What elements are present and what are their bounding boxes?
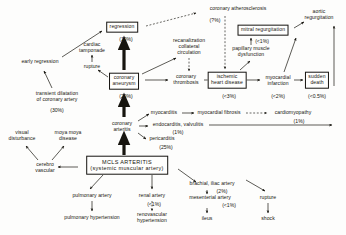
edge-brachial-to-rupture	[246, 180, 265, 191]
label-pct-renal-artery: (<1%)	[147, 201, 161, 207]
node-myocardial-fibrosis[interactable]: myocardial fibrosis	[197, 110, 240, 116]
node-renal-artery[interactable]: renal artery	[139, 193, 165, 199]
node-mitral-regurgitation[interactable]: mitral regurgitation	[238, 25, 289, 36]
node-cardiac-tamponade[interactable]: cardiac tamponade	[79, 42, 105, 54]
node-transient-dilatation[interactable]: transient dilatation of coronary artery	[36, 91, 78, 103]
edge-cerebro-to-moya	[52, 146, 64, 160]
node-cardiomyopathy[interactable]: cardiomyopathy	[275, 110, 312, 116]
node-coronary-arteritis[interactable]: coronary arteritis	[112, 121, 132, 133]
label-pct-coronary-aneurysm: (20%)	[119, 93, 133, 99]
label-pct-pericarditis: (25%)	[159, 144, 173, 150]
edge-aneurysm-to-recanalization	[142, 58, 176, 74]
node-ischemic-heart-disease[interactable]: ischemic heart disease	[208, 72, 247, 89]
node-moya-moya[interactable]: moya moya disease	[55, 130, 82, 142]
diagram-canvas: regressioncoronary atherosclerosiscardia…	[0, 0, 346, 235]
edge-infarction-to-mitral	[284, 38, 296, 72]
edge-arteritis-to-pericarditis	[138, 133, 146, 139]
node-pulmonary-artery[interactable]: pulmonary artery	[72, 193, 111, 199]
node-regression[interactable]: regression	[106, 22, 138, 33]
edge-mcls-to-pulmonary	[90, 175, 103, 189]
edge-cerebro-to-visual	[26, 146, 38, 160]
node-rupture-top[interactable]: rupture	[84, 64, 101, 70]
node-renovascular-hypertension[interactable]: renovascular hypertension	[137, 212, 167, 224]
node-myocardial-infarction[interactable]: myocardial infarction	[265, 75, 290, 87]
label-pct-brachial: (2%)	[217, 188, 228, 194]
label-pct-regression: (10%)	[119, 36, 133, 42]
node-endocarditis[interactable]: endocarditis, valvulitis	[153, 122, 204, 128]
edge-mitral-to-aortic	[294, 22, 304, 28]
label-pct-sudden-death: (<0.5%)	[308, 93, 326, 99]
label-pct-myocardial-infarction: (<2%)	[271, 93, 285, 99]
node-ileus[interactable]: ileus	[202, 216, 213, 222]
label-pct-ischemic: (<3%)	[222, 93, 236, 99]
node-brachial-iliac-artery[interactable]: brachial, iliac artery	[190, 181, 235, 187]
node-early-regression[interactable]: early regression	[21, 59, 58, 65]
label-pct-mesenterial: (<1%)	[222, 202, 236, 208]
label-pct-atherosclerosis: (?%)	[210, 17, 221, 23]
label-pct-cardiomyopathy: (1%)	[294, 118, 305, 124]
node-pulmonary-hypertension[interactable]: pulmonary hypertension	[64, 215, 119, 221]
node-papillary-muscle[interactable]: papillary muscle dysfunction	[232, 46, 269, 58]
node-sudden-death[interactable]: sudden death	[305, 72, 329, 89]
node-aortic-regurgitation[interactable]: aortic regurgitation	[305, 9, 334, 21]
node-coronary-thrombosis[interactable]: coronary thrombosis	[173, 74, 198, 86]
label-pct-mitral-regurgitation: (<1%)	[255, 38, 269, 44]
node-shock[interactable]: shock	[261, 216, 275, 222]
edge-regression-to-atherosclerosis	[146, 13, 196, 26]
edge-ischemic-to-papillary	[240, 61, 250, 70]
node-mesenterial-artery[interactable]: mesenterial artery	[189, 195, 231, 201]
node-rupture-bottom[interactable]: rupture	[260, 195, 277, 201]
edge-aneurysm-to-rupture	[98, 70, 108, 77]
label-pct-endocarditis: (1%)	[173, 129, 184, 135]
node-coronary-atherosclerosis[interactable]: coronary atherosclerosis	[210, 6, 267, 12]
label-pct-transient-dilatation: (30%)	[50, 107, 64, 113]
node-visual-disturbance[interactable]: visual disturbance	[9, 130, 36, 142]
node-cerebro-vascular[interactable]: cerebro vascular	[35, 162, 54, 174]
edge-arteritis-to-myocarditis	[138, 114, 149, 121]
node-myocarditis[interactable]: myocarditis	[151, 110, 177, 116]
node-mcls-arteritis[interactable]: MCLS ARTERITIS (systemic muscular artery…	[86, 156, 168, 175]
node-coronary-aneurysm[interactable]: coronary aneurysm	[109, 73, 139, 90]
node-pericarditis[interactable]: pericarditis	[149, 136, 174, 142]
edge-transient-to-early-regression	[44, 71, 52, 88]
node-recanalization[interactable]: recanalization collateral circulation	[173, 38, 205, 56]
